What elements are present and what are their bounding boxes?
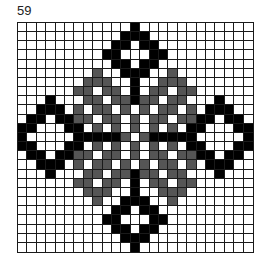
- empty-cell: [27, 32, 36, 41]
- gray-stitch-cell: [112, 87, 121, 96]
- empty-cell: [206, 60, 215, 69]
- empty-cell: [187, 60, 196, 69]
- black-stitch-cell: [27, 151, 36, 160]
- gray-stitch-cell: [112, 115, 121, 124]
- empty-cell: [121, 87, 130, 96]
- empty-cell: [234, 133, 243, 142]
- gray-stitch-cell: [168, 105, 177, 114]
- empty-cell: [93, 206, 102, 215]
- black-stitch-cell: [234, 115, 243, 124]
- black-stitch-cell: [131, 170, 140, 179]
- empty-cell: [187, 96, 196, 105]
- empty-cell: [244, 78, 253, 87]
- black-stitch-cell: [140, 60, 149, 69]
- black-stitch-cell: [65, 142, 74, 151]
- gray-stitch-cell: [131, 151, 140, 160]
- empty-cell: [244, 170, 253, 179]
- empty-cell: [234, 32, 243, 41]
- black-stitch-cell: [131, 96, 140, 105]
- empty-cell: [18, 115, 27, 124]
- empty-cell: [56, 170, 65, 179]
- empty-cell: [103, 32, 112, 41]
- empty-cell: [197, 215, 206, 224]
- black-stitch-cell: [74, 124, 83, 133]
- black-stitch-cell: [56, 151, 65, 160]
- empty-cell: [215, 197, 224, 206]
- empty-cell: [18, 206, 27, 215]
- empty-cell: [84, 206, 93, 215]
- black-stitch-cell: [46, 105, 55, 114]
- empty-cell: [234, 78, 243, 87]
- empty-cell: [93, 215, 102, 224]
- empty-cell: [225, 96, 234, 105]
- empty-cell: [206, 215, 215, 224]
- empty-cell: [84, 105, 93, 114]
- gray-stitch-cell: [112, 96, 121, 105]
- empty-cell: [187, 225, 196, 234]
- empty-cell: [206, 142, 215, 151]
- black-stitch-cell: [150, 133, 159, 142]
- black-stitch-cell: [187, 124, 196, 133]
- empty-cell: [46, 41, 55, 50]
- empty-cell: [225, 41, 234, 50]
- black-stitch-cell: [84, 133, 93, 142]
- empty-cell: [46, 179, 55, 188]
- black-stitch-cell: [140, 32, 149, 41]
- gray-stitch-cell: [168, 160, 177, 169]
- black-stitch-cell: [46, 160, 55, 169]
- empty-cell: [150, 243, 159, 252]
- empty-cell: [46, 60, 55, 69]
- empty-cell: [37, 96, 46, 105]
- black-stitch-cell: [187, 142, 196, 151]
- empty-cell: [178, 243, 187, 252]
- black-stitch-cell: [159, 133, 168, 142]
- gray-stitch-cell: [103, 188, 112, 197]
- empty-cell: [206, 23, 215, 32]
- empty-cell: [121, 151, 130, 160]
- gray-stitch-cell: [159, 179, 168, 188]
- empty-cell: [46, 225, 55, 234]
- empty-cell: [18, 188, 27, 197]
- black-stitch-cell: [121, 69, 130, 78]
- gray-stitch-cell: [178, 170, 187, 179]
- empty-cell: [27, 23, 36, 32]
- empty-cell: [159, 41, 168, 50]
- empty-cell: [225, 142, 234, 151]
- empty-cell: [225, 234, 234, 243]
- empty-cell: [131, 105, 140, 114]
- empty-cell: [93, 60, 102, 69]
- gray-stitch-cell: [112, 179, 121, 188]
- empty-cell: [140, 78, 149, 87]
- black-stitch-cell: [197, 142, 206, 151]
- black-stitch-cell: [197, 124, 206, 133]
- empty-cell: [215, 188, 224, 197]
- black-stitch-cell: [215, 160, 224, 169]
- empty-cell: [56, 188, 65, 197]
- gray-stitch-cell: [93, 78, 102, 87]
- empty-cell: [84, 142, 93, 151]
- empty-cell: [37, 69, 46, 78]
- black-stitch-cell: [131, 78, 140, 87]
- empty-cell: [244, 151, 253, 160]
- empty-cell: [234, 160, 243, 169]
- empty-cell: [103, 234, 112, 243]
- gray-stitch-cell: [168, 124, 177, 133]
- empty-cell: [46, 133, 55, 142]
- gray-stitch-cell: [150, 115, 159, 124]
- empty-cell: [56, 41, 65, 50]
- empty-cell: [46, 215, 55, 224]
- empty-cell: [65, 160, 74, 169]
- empty-cell: [65, 78, 74, 87]
- empty-cell: [197, 206, 206, 215]
- empty-cell: [56, 133, 65, 142]
- black-stitch-cell: [46, 96, 55, 105]
- gray-stitch-cell: [103, 160, 112, 169]
- empty-cell: [140, 243, 149, 252]
- black-stitch-cell: [56, 115, 65, 124]
- empty-cell: [56, 243, 65, 252]
- gray-stitch-cell: [74, 160, 83, 169]
- empty-cell: [74, 234, 83, 243]
- gray-stitch-cell: [159, 115, 168, 124]
- empty-cell: [56, 23, 65, 32]
- empty-cell: [215, 243, 224, 252]
